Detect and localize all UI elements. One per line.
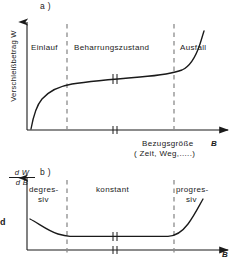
panel-a-y-axis-label: Verschleißbetrag W (10, 22, 18, 110)
panel-b-label: b ) (40, 168, 51, 177)
panel-b-phase-degressiv-line1: degres- (29, 186, 59, 194)
panel-a-phase-ausfall: Ausfall (180, 44, 206, 52)
figure-drawing (0, 0, 237, 263)
panel-b-phase-konstant: konstant (96, 186, 129, 194)
panel-a-axes (27, 22, 228, 130)
panel-a-phase-beharrungszustand: Beharrungszustand (74, 44, 149, 52)
wear-curve-figure: a ) Verschleißbetrag W Einlauf Beharrung… (0, 0, 237, 263)
panel-a-x-axis-label: Bezugsgröße (142, 140, 193, 148)
panel-b-x-axis-symbol: B (222, 251, 228, 259)
panel-a-x-axis-units: ( Zeit, Weg,.....) (134, 150, 195, 158)
panel-b-wear-rate-curve (30, 199, 203, 236)
panel-a-x-axis-symbol: B (211, 140, 217, 148)
margin-mark: d (0, 218, 6, 227)
panel-b-phase-degressiv-line2: siv (38, 196, 49, 204)
panel-a-label: a ) (40, 2, 51, 11)
panel-b-phase-progressiv-line2: siv (186, 196, 197, 204)
panel-b-y-axis-numerator: d W (9, 169, 35, 177)
panel-a-phase-einlauf: Einlauf (31, 44, 58, 52)
panel-b-phase-progressiv-line1: progres- (176, 186, 209, 194)
